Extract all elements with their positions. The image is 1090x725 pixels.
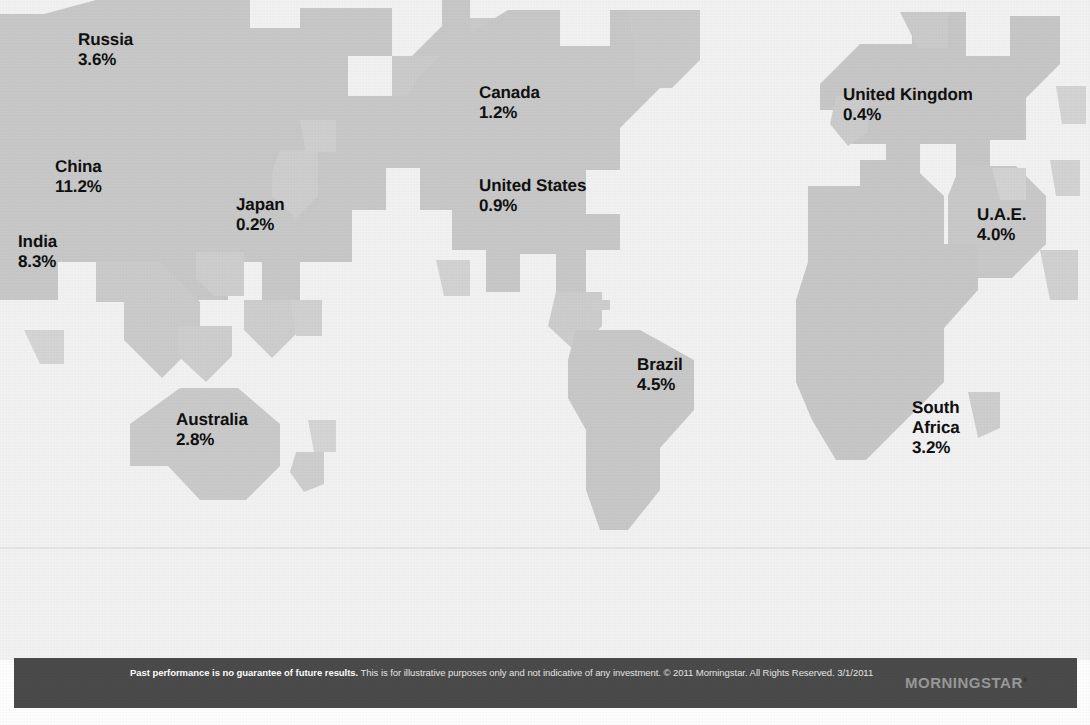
country-name: Canada: [479, 83, 540, 103]
country-value: 3.6%: [78, 50, 133, 70]
morningstar-registered-mark: ®: [1023, 677, 1027, 683]
country-value: 4.5%: [637, 375, 683, 395]
country-label-united-kingdom: United Kingdom0.4%: [843, 85, 973, 125]
country-value: 8.3%: [18, 252, 57, 272]
country-name: United States: [479, 176, 586, 196]
country-label-china: China11.2%: [55, 157, 102, 197]
country-value: 0.2%: [236, 215, 285, 235]
disclaimer-lead: Past performance is no guarantee of futu…: [130, 667, 358, 678]
country-value: 4.0%: [977, 225, 1026, 245]
disclaimer-body: This is for illustrative purposes only a…: [358, 667, 873, 678]
country-value: 1.2%: [479, 103, 540, 123]
country-name: Australia: [176, 410, 248, 430]
country-value: 11.2%: [55, 177, 102, 197]
country-name: Brazil: [637, 355, 683, 375]
country-label-japan: Japan0.2%: [236, 195, 285, 235]
country-name: China: [55, 157, 102, 177]
country-value: 0.4%: [843, 105, 973, 125]
country-name: U.A.E.: [977, 205, 1026, 225]
country-label-canada: Canada1.2%: [479, 83, 540, 123]
country-name: United Kingdom: [843, 85, 973, 105]
infographic-root: Russia3.6%China11.2%Japan0.2%India8.3%Au…: [0, 0, 1090, 725]
country-label-brazil: Brazil4.5%: [637, 355, 683, 395]
landmass-japan-north: [300, 120, 336, 152]
country-name: India: [18, 232, 57, 252]
morningstar-logo: MORNINGSTAR®: [905, 674, 1055, 694]
country-label-russia: Russia3.6%: [78, 30, 133, 70]
country-name: Japan: [236, 195, 285, 215]
disclaimer-footer: Past performance is no guarantee of futu…: [14, 658, 1077, 708]
country-value: 0.9%: [479, 196, 586, 216]
country-value: 2.8%: [176, 430, 248, 450]
country-label-south-africa: South Africa3.2%: [912, 398, 960, 458]
country-name: South Africa: [912, 398, 960, 438]
landmass-caribbean: [592, 300, 610, 310]
country-label-india: India8.3%: [18, 232, 57, 272]
country-label-united-states: United States0.9%: [479, 176, 586, 216]
country-name: Russia: [78, 30, 133, 50]
country-label-australia: Australia2.8%: [176, 410, 248, 450]
morningstar-wordmark: MORNINGSTAR: [905, 674, 1023, 691]
country-label-uae: U.A.E.4.0%: [977, 205, 1026, 245]
disclaimer-text: Past performance is no guarantee of futu…: [130, 667, 890, 680]
country-value: 3.2%: [912, 438, 960, 458]
